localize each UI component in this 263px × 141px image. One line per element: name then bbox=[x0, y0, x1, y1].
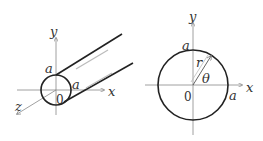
right-figure: y x a a 0 r θ bbox=[145, 9, 254, 135]
origin-label: 0 bbox=[56, 93, 64, 107]
cylinder-top-edge bbox=[56, 34, 122, 75]
x-label: x bbox=[246, 80, 254, 95]
r-label: r bbox=[196, 55, 203, 70]
x-label: x bbox=[108, 84, 116, 99]
a-right-label: a bbox=[72, 77, 80, 92]
z-axis bbox=[17, 90, 56, 114]
y-label: y bbox=[49, 24, 58, 39]
a-right-label: a bbox=[229, 88, 237, 103]
theta-label: θ bbox=[202, 71, 210, 86]
y-label: y bbox=[188, 9, 197, 24]
left-figure: y x z a a 0 bbox=[14, 24, 133, 115]
z-label: z bbox=[14, 99, 22, 114]
a-top-label: a bbox=[182, 38, 190, 53]
a-top-label: a bbox=[45, 61, 53, 76]
origin-label: 0 bbox=[184, 90, 192, 104]
diagram-canvas: y x z a a 0 y x a a 0 r θ bbox=[0, 0, 263, 141]
